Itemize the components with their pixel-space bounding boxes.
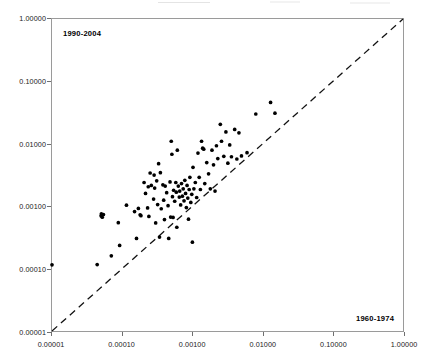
- ytick-label-6: 0.00001: [0, 328, 46, 337]
- xtick-mark-6: [404, 332, 405, 336]
- data-point: [118, 244, 122, 248]
- xtick-label-5: 0.10000: [320, 340, 347, 349]
- xtick-mark-5: [333, 332, 334, 336]
- data-point: [202, 147, 206, 151]
- data-point: [196, 151, 200, 155]
- data-point: [228, 143, 232, 147]
- data-point: [210, 148, 214, 152]
- data-point: [220, 139, 224, 143]
- data-point: [218, 123, 222, 127]
- data-point: [186, 196, 190, 200]
- data-point: [189, 201, 193, 205]
- data-point: [163, 184, 167, 188]
- x-series-label: 1960-1974: [356, 314, 394, 323]
- data-point: [184, 192, 188, 196]
- data-point: [173, 199, 177, 203]
- data-point: [192, 187, 196, 191]
- data-point: [208, 187, 212, 191]
- y-series-label: 1990-2004: [63, 29, 101, 38]
- data-point: [222, 154, 226, 158]
- scan-artifact: [150, 0, 400, 5]
- ytick-label-2: 0.10000: [0, 76, 46, 85]
- data-point: [146, 206, 150, 210]
- data-point: [216, 157, 220, 161]
- xtick-mark-1: [51, 332, 52, 336]
- data-point: [157, 162, 161, 166]
- xtick-mark-3: [192, 332, 193, 336]
- data-point: [226, 161, 230, 165]
- data-point: [233, 128, 237, 132]
- data-point: [116, 221, 120, 225]
- data-point: [273, 111, 277, 115]
- xtick-mark-2: [122, 332, 123, 336]
- data-point: [163, 218, 167, 222]
- data-point: [135, 237, 139, 241]
- data-points-group: [50, 101, 277, 267]
- data-point: [174, 181, 178, 185]
- data-point: [175, 225, 179, 229]
- data-point: [147, 215, 151, 219]
- data-point: [185, 184, 189, 188]
- data-point: [155, 179, 159, 183]
- data-point: [125, 203, 129, 207]
- data-point: [171, 216, 175, 220]
- data-point: [185, 206, 189, 210]
- data-point: [240, 154, 244, 158]
- xtick-label-3: 0.00100: [179, 340, 206, 349]
- data-point: [175, 148, 179, 152]
- plot-area: 1990-2004 1960-1974: [51, 18, 404, 332]
- data-point: [153, 186, 157, 190]
- data-point: [235, 157, 239, 161]
- data-point: [193, 181, 197, 185]
- data-point: [191, 165, 195, 169]
- reference-line: [52, 19, 403, 331]
- ytick-label-3: 0.01000: [0, 139, 46, 148]
- identity-reference-line: [52, 19, 403, 331]
- data-point: [170, 152, 174, 156]
- data-point: [254, 112, 258, 116]
- data-point: [179, 203, 183, 207]
- data-point: [171, 195, 175, 199]
- data-point: [169, 139, 173, 143]
- data-point: [167, 237, 171, 241]
- data-point: [50, 263, 54, 267]
- data-point: [205, 161, 209, 165]
- data-point: [178, 189, 182, 193]
- data-point: [195, 196, 199, 200]
- data-point: [149, 184, 153, 188]
- data-point: [152, 197, 156, 201]
- data-point: [177, 195, 181, 199]
- data-point: [182, 199, 186, 203]
- ytick-label-4: 0.00100: [0, 202, 46, 211]
- data-point: [215, 144, 219, 148]
- scatter-plot-figure: 1.00000 0.10000 0.01000 0.00100 0.00010 …: [0, 0, 430, 360]
- data-point: [224, 130, 228, 134]
- data-point: [187, 217, 191, 221]
- data-point: [187, 188, 191, 192]
- data-point: [199, 188, 203, 192]
- data-point: [197, 176, 201, 180]
- data-point: [181, 194, 185, 198]
- data-point: [176, 184, 180, 188]
- data-point: [159, 207, 163, 211]
- data-point: [183, 178, 187, 182]
- data-point: [180, 182, 184, 186]
- data-point: [191, 240, 195, 244]
- xtick-mark-4: [263, 332, 264, 336]
- data-point: [162, 198, 166, 202]
- data-point: [213, 189, 217, 193]
- data-point: [139, 214, 143, 218]
- data-point: [142, 181, 146, 185]
- data-point: [137, 207, 141, 211]
- data-point: [154, 221, 158, 225]
- data-point: [212, 163, 216, 167]
- data-point: [148, 171, 152, 175]
- data-point: [166, 204, 170, 208]
- data-point: [133, 210, 137, 214]
- data-point: [165, 191, 169, 195]
- data-point: [188, 176, 192, 180]
- data-point: [190, 192, 194, 196]
- data-point: [168, 180, 172, 184]
- xtick-label-4: 0.01000: [249, 340, 276, 349]
- xtick-label-6: 1.00000: [391, 340, 418, 349]
